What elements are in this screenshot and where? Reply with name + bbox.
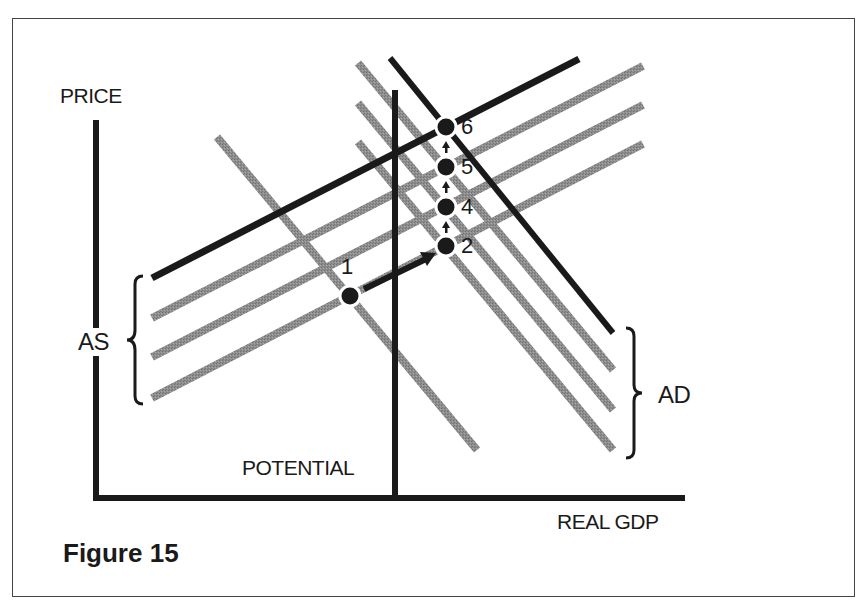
potential-label: POTENTIAL (242, 456, 354, 480)
as-brace (127, 276, 143, 404)
point-6-label: 6 (461, 114, 473, 140)
point-4-label: 4 (461, 194, 473, 220)
ad-group-label: AD (658, 381, 690, 409)
point-5 (436, 157, 456, 177)
point-1 (340, 286, 360, 306)
ad-as-diagram (0, 0, 868, 616)
arrow-5-to-6 (442, 141, 450, 148)
point-6 (436, 117, 456, 137)
x-axis-label: REAL GDP (557, 510, 658, 534)
point-5-label: 5 (461, 154, 473, 180)
point-1-label: 1 (341, 254, 353, 280)
figure-title: Figure 15 (63, 538, 179, 569)
y-axis-label: PRICE (60, 84, 122, 108)
ad-brace (626, 328, 642, 458)
point-2-label: 2 (461, 233, 473, 259)
vertical-arrows (442, 141, 450, 233)
as-group-label: AS (76, 328, 111, 356)
point-2 (436, 236, 456, 256)
point-4 (436, 197, 456, 217)
arrow-4-to-5 (442, 181, 450, 188)
arrow-2-to-4 (442, 221, 450, 228)
